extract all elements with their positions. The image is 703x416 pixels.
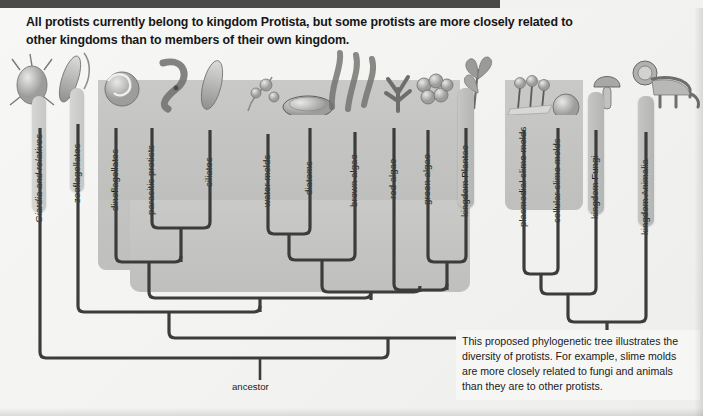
node-slime-fungi (541, 215, 596, 294)
ancestor-label: ancestor (232, 381, 269, 392)
node-zoo-clade (78, 268, 260, 312)
node-parasitic-ciliates (152, 205, 210, 228)
page-edge-bottom (0, 408, 703, 416)
figure-note: This proposed phylogenetic tree illustra… (456, 330, 700, 400)
node-watermold-diatom (268, 212, 310, 234)
node-green-plants (428, 240, 466, 262)
node-slime-molds (524, 248, 558, 274)
page-edge-right (694, 8, 703, 416)
node-alveolates (116, 228, 181, 262)
phylogenetic-tree-figure: All protists currently belong to kingdom… (0, 0, 703, 416)
node-stramenopiles (289, 240, 355, 260)
node-root (40, 300, 388, 358)
